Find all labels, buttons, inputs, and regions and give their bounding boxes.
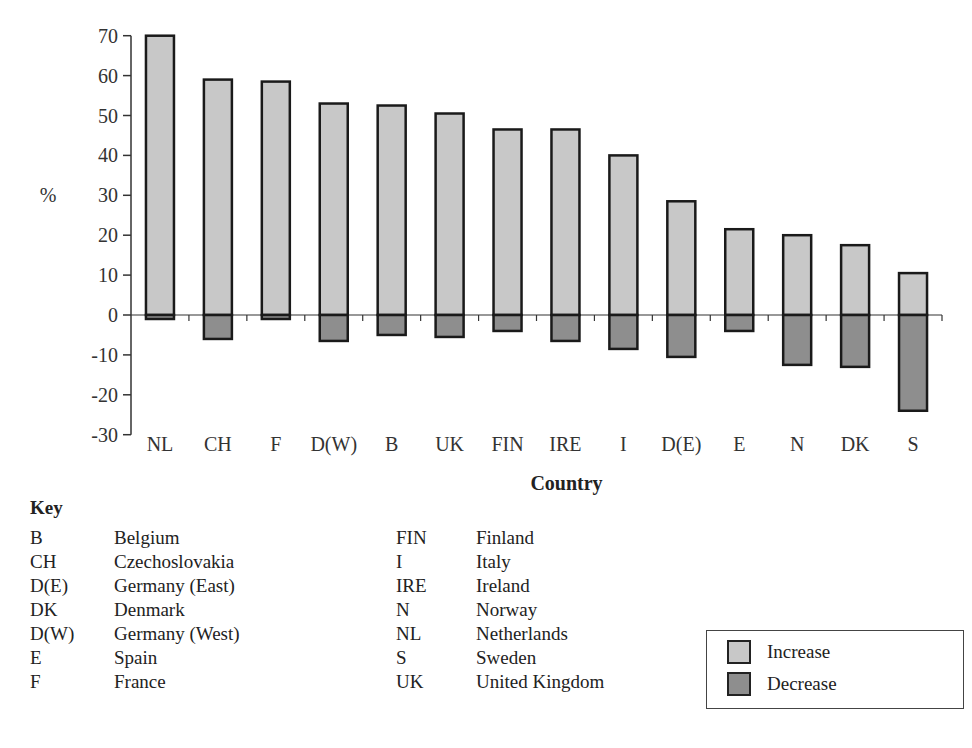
x-tick-label: S [907, 433, 918, 455]
key-row: IItaly [396, 550, 604, 574]
bar-increase [551, 129, 579, 315]
bar-decrease [841, 315, 869, 367]
key-row: SSweden [396, 646, 604, 670]
bar-decrease [783, 315, 811, 365]
bar-decrease [436, 315, 464, 337]
bar-increase [378, 106, 406, 315]
bar-increase [436, 114, 464, 315]
key-row: D(W)Germany (West) [30, 622, 240, 646]
bar-increase [494, 129, 522, 315]
x-tick-label: D(E) [661, 433, 701, 456]
key-row: UKUnited Kingdom [396, 670, 604, 694]
bar-increase [725, 229, 753, 315]
bar-increase [609, 155, 637, 315]
key-row: NLNetherlands [396, 622, 604, 646]
key-row: BBelgium [30, 526, 240, 550]
bar-decrease [378, 315, 406, 335]
bar-decrease [262, 315, 290, 319]
bar-decrease [551, 315, 579, 341]
bar-increase [783, 235, 811, 315]
bar-decrease [609, 315, 637, 349]
bar-increase [146, 36, 174, 315]
x-tick-label: F [270, 433, 281, 455]
x-tick-label: UK [435, 433, 464, 455]
key-row: NNorway [396, 598, 604, 622]
x-tick-label: N [790, 433, 804, 455]
key-list-left: BBelgium CHCzechoslovakia D(E)Germany (E… [30, 526, 240, 694]
bar-decrease [146, 315, 174, 319]
legend-item-increase: Increase [727, 640, 830, 664]
y-tick-label: 20 [98, 224, 118, 246]
x-tick-label: FIN [491, 433, 523, 455]
key-row: D(E)Germany (East) [30, 574, 240, 598]
y-tick-label: 30 [98, 184, 118, 206]
bar-increase [204, 80, 232, 315]
x-tick-label: IRE [549, 433, 581, 455]
bar-increase [841, 245, 869, 315]
x-tick-label: NL [147, 433, 174, 455]
key-row: FINFinland [396, 526, 604, 550]
key-list-right: FINFinland IItaly IREIreland NNorway NLN… [396, 526, 604, 694]
decrease-swatch [727, 672, 751, 696]
y-tick-label: -30 [91, 424, 118, 446]
y-tick-label: 50 [98, 105, 118, 127]
bar-chart: 706050403020100-10-20-30%NLCHFD(W)BUKFIN… [0, 0, 972, 500]
increase-swatch [727, 640, 751, 664]
bar-increase [667, 201, 695, 315]
y-tick-label: -20 [91, 384, 118, 406]
x-tick-label: E [733, 433, 745, 455]
key-title: Key [30, 497, 63, 519]
x-tick-label: DK [841, 433, 870, 455]
bar-decrease [725, 315, 753, 331]
y-tick-label: 40 [98, 144, 118, 166]
y-tick-label: 70 [98, 25, 118, 47]
x-tick-label: CH [204, 433, 232, 455]
key-row: IREIreland [396, 574, 604, 598]
y-tick-label: 60 [98, 65, 118, 87]
y-tick-label: 0 [108, 304, 118, 326]
bar-increase [262, 82, 290, 315]
bar-decrease [320, 315, 348, 341]
y-tick-label: -10 [91, 344, 118, 366]
legend-item-decrease: Decrease [727, 672, 837, 696]
x-tick-label: I [620, 433, 627, 455]
bar-decrease [667, 315, 695, 357]
y-axis-label: % [40, 184, 57, 206]
x-tick-label: D(W) [310, 433, 357, 456]
bar-decrease [494, 315, 522, 331]
key-row: DKDenmark [30, 598, 240, 622]
bar-decrease [899, 315, 927, 411]
key-row: ESpain [30, 646, 240, 670]
legend: Increase Decrease [706, 630, 964, 709]
key-row: CHCzechoslovakia [30, 550, 240, 574]
bar-increase [899, 273, 927, 315]
bar-increase [320, 104, 348, 315]
key-row: FFrance [30, 670, 240, 694]
bar-decrease [204, 315, 232, 339]
x-axis-label: Country [530, 472, 602, 495]
y-tick-label: 10 [98, 264, 118, 286]
x-tick-label: B [385, 433, 398, 455]
